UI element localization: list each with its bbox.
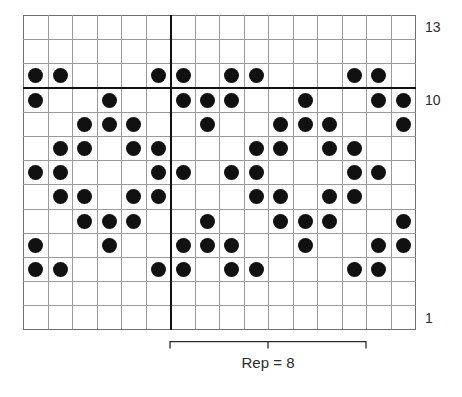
- chart-cell[interactable]: [293, 40, 318, 64]
- chart-cell[interactable]: [293, 64, 318, 88]
- chart-cell[interactable]: [73, 185, 98, 209]
- chart-cell[interactable]: [171, 209, 196, 233]
- chart-cell[interactable]: [195, 282, 220, 306]
- chart-cell[interactable]: [220, 112, 245, 136]
- chart-cell[interactable]: [24, 136, 49, 160]
- chart-cell[interactable]: [122, 136, 147, 160]
- chart-cell[interactable]: [342, 16, 367, 40]
- chart-cell[interactable]: [195, 233, 220, 257]
- chart-cell[interactable]: [24, 40, 49, 64]
- chart-cell[interactable]: [318, 306, 343, 330]
- chart-cell[interactable]: [244, 88, 269, 112]
- chart-cell[interactable]: [367, 282, 392, 306]
- chart-cell[interactable]: [367, 209, 392, 233]
- chart-cell[interactable]: [171, 16, 196, 40]
- chart-cell[interactable]: [73, 112, 98, 136]
- chart-cell[interactable]: [318, 112, 343, 136]
- chart-cell[interactable]: [48, 209, 73, 233]
- chart-cell[interactable]: [391, 88, 416, 112]
- chart-cell[interactable]: [48, 88, 73, 112]
- chart-cell[interactable]: [171, 161, 196, 185]
- chart-cell[interactable]: [48, 112, 73, 136]
- chart-cell[interactable]: [269, 257, 294, 281]
- chart-cell[interactable]: [195, 112, 220, 136]
- chart-cell[interactable]: [367, 64, 392, 88]
- chart-cell[interactable]: [367, 185, 392, 209]
- chart-cell[interactable]: [122, 185, 147, 209]
- chart-cell[interactable]: [220, 161, 245, 185]
- chart-cell[interactable]: [293, 88, 318, 112]
- chart-cell[interactable]: [342, 112, 367, 136]
- chart-cell[interactable]: [318, 16, 343, 40]
- chart-cell[interactable]: [195, 88, 220, 112]
- chart-cell[interactable]: [220, 16, 245, 40]
- chart-cell[interactable]: [244, 257, 269, 281]
- chart-cell[interactable]: [195, 306, 220, 330]
- chart-cell[interactable]: [97, 64, 122, 88]
- chart-cell[interactable]: [269, 209, 294, 233]
- chart-cell[interactable]: [342, 88, 367, 112]
- chart-cell[interactable]: [293, 16, 318, 40]
- chart-cell[interactable]: [24, 306, 49, 330]
- chart-cell[interactable]: [97, 306, 122, 330]
- chart-cell[interactable]: [146, 306, 171, 330]
- chart-cell[interactable]: [97, 40, 122, 64]
- chart-cell[interactable]: [97, 282, 122, 306]
- chart-cell[interactable]: [244, 209, 269, 233]
- chart-cell[interactable]: [48, 257, 73, 281]
- chart-cell[interactable]: [318, 282, 343, 306]
- chart-cell[interactable]: [244, 282, 269, 306]
- chart-cell[interactable]: [48, 282, 73, 306]
- chart-cell[interactable]: [146, 64, 171, 88]
- chart-cell[interactable]: [48, 64, 73, 88]
- chart-cell[interactable]: [269, 40, 294, 64]
- chart-cell[interactable]: [318, 136, 343, 160]
- chart-cell[interactable]: [342, 257, 367, 281]
- chart-cell[interactable]: [220, 233, 245, 257]
- chart-cell[interactable]: [244, 16, 269, 40]
- chart-cell[interactable]: [24, 112, 49, 136]
- chart-cell[interactable]: [97, 233, 122, 257]
- chart-cell[interactable]: [122, 306, 147, 330]
- chart-cell[interactable]: [220, 306, 245, 330]
- chart-cell[interactable]: [293, 306, 318, 330]
- chart-cell[interactable]: [195, 257, 220, 281]
- chart-cell[interactable]: [220, 257, 245, 281]
- chart-cell[interactable]: [24, 64, 49, 88]
- chart-cell[interactable]: [367, 112, 392, 136]
- chart-cell[interactable]: [269, 306, 294, 330]
- chart-cell[interactable]: [146, 88, 171, 112]
- chart-cell[interactable]: [171, 64, 196, 88]
- chart-cell[interactable]: [146, 257, 171, 281]
- chart-cell[interactable]: [367, 233, 392, 257]
- chart-cell[interactable]: [220, 40, 245, 64]
- chart-cell[interactable]: [171, 112, 196, 136]
- chart-cell[interactable]: [122, 161, 147, 185]
- chart-cell[interactable]: [171, 282, 196, 306]
- chart-cell[interactable]: [293, 233, 318, 257]
- chart-cell[interactable]: [318, 40, 343, 64]
- chart-cell[interactable]: [73, 136, 98, 160]
- chart-cell[interactable]: [24, 16, 49, 40]
- chart-cell[interactable]: [24, 233, 49, 257]
- chart-cell[interactable]: [293, 161, 318, 185]
- chart-cell[interactable]: [171, 306, 196, 330]
- chart-cell[interactable]: [97, 88, 122, 112]
- chart-cell[interactable]: [24, 282, 49, 306]
- chart-cell[interactable]: [342, 64, 367, 88]
- chart-cell[interactable]: [220, 185, 245, 209]
- chart-cell[interactable]: [195, 64, 220, 88]
- chart-cell[interactable]: [244, 306, 269, 330]
- chart-cell[interactable]: [342, 306, 367, 330]
- chart-cell[interactable]: [367, 16, 392, 40]
- chart-cell[interactable]: [391, 161, 416, 185]
- chart-cell[interactable]: [244, 185, 269, 209]
- chart-cell[interactable]: [318, 233, 343, 257]
- chart-cell[interactable]: [293, 282, 318, 306]
- chart-cell[interactable]: [342, 185, 367, 209]
- chart-cell[interactable]: [391, 257, 416, 281]
- chart-cell[interactable]: [195, 161, 220, 185]
- chart-cell[interactable]: [244, 233, 269, 257]
- chart-cell[interactable]: [195, 209, 220, 233]
- chart-cell[interactable]: [195, 136, 220, 160]
